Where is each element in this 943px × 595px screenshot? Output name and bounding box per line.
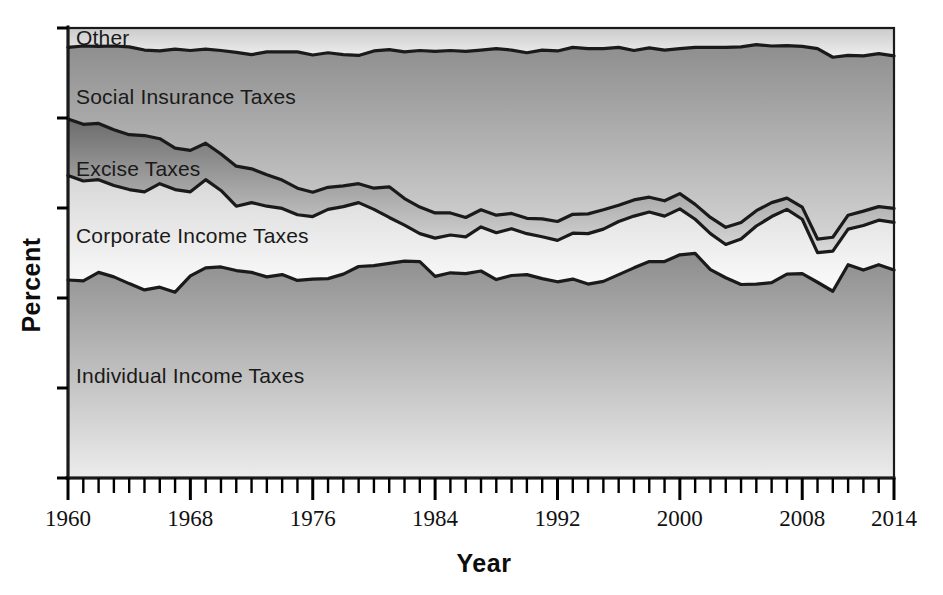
x-tick-label-1992: 1992 (534, 506, 580, 531)
x-axis-tick-labels: 19601968197619841992200020082014 (45, 506, 918, 531)
x-tick-label-1984: 1984 (412, 506, 459, 531)
x-tick-label-1976: 1976 (290, 506, 336, 531)
series-label-social-insurance-taxes: Social Insurance Taxes (76, 85, 296, 108)
series-label-other: Other (76, 26, 130, 49)
x-tick-label-1960: 1960 (45, 506, 91, 531)
series-label-individual-income-taxes: Individual Income Taxes (76, 364, 304, 387)
stacked-area-chart: 19601968197619841992200020082014 OtherSo… (0, 0, 943, 595)
chart-container: 19601968197619841992200020082014 OtherSo… (0, 0, 943, 595)
x-tick-label-1968: 1968 (167, 506, 213, 531)
series-label-corporate-income-taxes: Corporate Income Taxes (76, 224, 309, 247)
y-axis-title: Percent (17, 237, 45, 332)
series-label-excise-taxes: Excise Taxes (76, 157, 201, 180)
x-tick-label-2008: 2008 (779, 506, 825, 531)
x-tick-label-2014: 2014 (871, 506, 918, 531)
x-axis-title: Year (457, 549, 512, 577)
x-tick-label-2000: 2000 (657, 506, 703, 531)
